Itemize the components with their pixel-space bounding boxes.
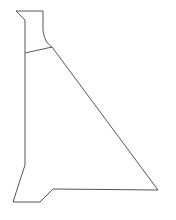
profile-outline-shape — [13, 11, 158, 202]
drawing-canvas — [0, 0, 176, 220]
profile-outline-drawing — [0, 0, 176, 220]
